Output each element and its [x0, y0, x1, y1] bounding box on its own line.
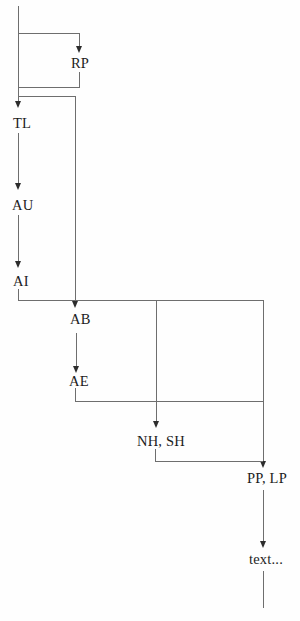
edge-ae-out [75, 401, 264, 402]
edge-ai-out-rail [18, 300, 264, 301]
edge-branch-to-rp [18, 33, 80, 34]
edge-rp-return [18, 87, 80, 88]
edge-nh-sh-out [155, 461, 263, 462]
edge-pp-lp-to-text [263, 490, 264, 542]
arrowhead-to-text-icon [260, 541, 266, 548]
edge-drop-to-rp [79, 33, 80, 47]
edge-branch-to-ab [18, 96, 76, 97]
node-label-ae: AE [69, 374, 89, 389]
arrowhead-to-ai-icon [15, 261, 21, 268]
edge-tl-to-au [18, 133, 19, 184]
edge-rp-return-stub [79, 72, 80, 87]
edge-drop-to-ab [75, 96, 76, 302]
arrowhead-to-ab-icon [72, 301, 78, 308]
node-label-ai: AI [13, 274, 29, 289]
arrowhead-to-nh-sh-icon [153, 421, 159, 428]
node-label-nh-sh: NH, SH [137, 434, 185, 449]
arrowhead-to-tl-icon [15, 101, 21, 108]
edge-drop-to-pp-lp [263, 300, 264, 461]
arrowhead-to-ae-icon [73, 366, 79, 373]
node-label-ab: AB [70, 312, 91, 327]
node-label-au: AU [12, 198, 33, 213]
edge-text-continuation [263, 571, 264, 608]
edge-ae-stub [75, 388, 76, 401]
node-label-more-text: text... [249, 552, 283, 567]
edge-au-to-ai [18, 215, 19, 262]
edge-drop-to-nh-sh [156, 300, 157, 422]
node-label-pp-lp: PP, LP [247, 471, 287, 486]
node-label-tl: TL [13, 116, 31, 131]
arrowhead-to-pp-lp-icon [260, 461, 266, 468]
edge-nh-sh-stub [155, 449, 156, 461]
arrowhead-to-au-icon [15, 183, 21, 190]
flow-diagram: RP TL AU AI AB AE NH, SH PP, LP text... [0, 0, 300, 621]
node-label-rp: RP [71, 56, 89, 71]
edge-ai-stub [18, 289, 19, 300]
arrowhead-to-rp-icon [76, 46, 82, 53]
edge-ab-to-ae [76, 333, 77, 367]
